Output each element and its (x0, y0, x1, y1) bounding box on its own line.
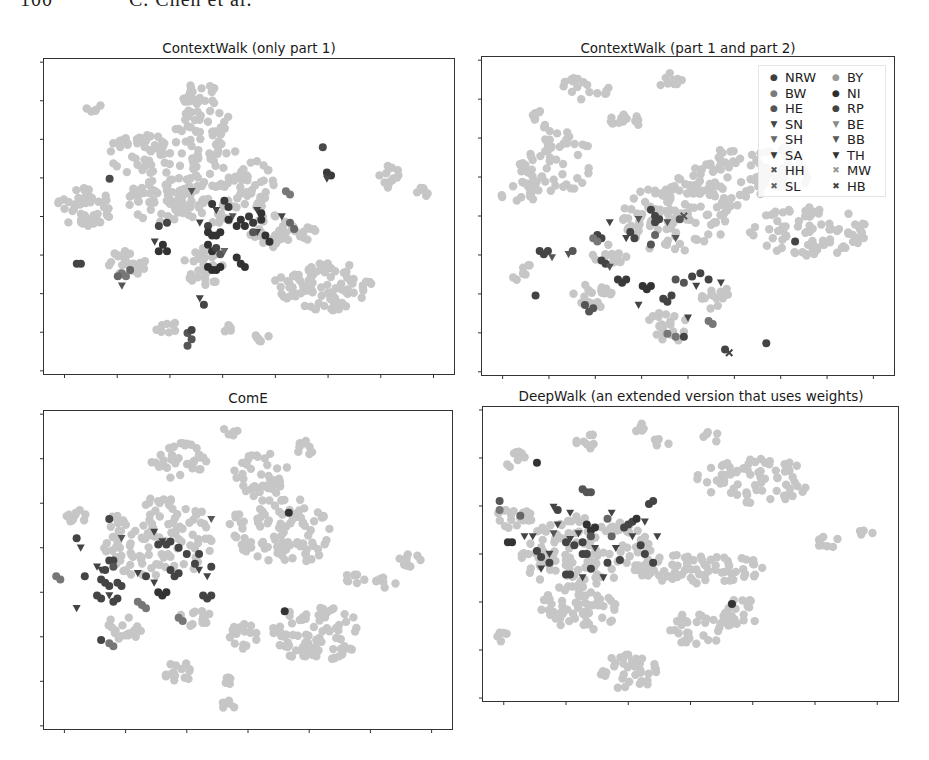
legend-item-by: ●BY (829, 70, 879, 86)
page-number: 100 (20, 0, 53, 10)
legend-label: TH (847, 148, 865, 164)
panel-title: ContextWalk (part 1 and part 2) (481, 40, 895, 56)
triangle-marker-icon: ▼ (829, 117, 843, 133)
legend-label: HB (847, 179, 866, 195)
x-marker-icon: ✖ (829, 179, 843, 195)
legend-label: SN (785, 117, 803, 133)
legend-item-sl: ✖SL (767, 179, 829, 195)
scatter-plot: ●NRW●BY●BW●NI●HE●RP▼SN▼BE▼SH▼BB▼SA▼TH✖HH… (481, 56, 895, 376)
legend-label: SA (785, 148, 802, 164)
legend-label: BE (847, 117, 864, 133)
legend-label: SH (785, 132, 803, 148)
legend-item-hb: ✖HB (829, 179, 879, 195)
circle-marker-icon: ● (829, 86, 843, 102)
panel-contextwalk-part1: ContextWalk (only part 1) (43, 40, 455, 380)
x-marker-icon: ✖ (829, 163, 843, 179)
background-points (493, 419, 876, 692)
circle-marker-icon: ● (767, 101, 781, 117)
scatter-canvas (44, 411, 452, 729)
legend-item-sa: ▼SA (767, 148, 829, 164)
legend-item-bw: ●BW (767, 86, 829, 102)
legend-item-sn: ▼SN (767, 117, 829, 133)
circle-marker-icon: ● (767, 86, 781, 102)
circle-marker-icon: ● (767, 70, 781, 86)
x-marker-icon: ✖ (767, 179, 781, 195)
legend-item-th: ▼TH (829, 148, 879, 164)
triangle-marker-icon: ▼ (767, 132, 781, 148)
legend-item-rp: ●RP (829, 101, 879, 117)
scatter-plot (43, 58, 455, 375)
legend-label: BY (847, 70, 863, 86)
legend-item-mw: ✖MW (829, 163, 879, 179)
legend-item-he: ●HE (767, 101, 829, 117)
triangle-marker-icon: ▼ (829, 148, 843, 164)
scatter-canvas (44, 59, 454, 374)
legend-label: BB (847, 132, 865, 148)
x-marker-icon: ✖ (767, 163, 781, 179)
triangle-marker-icon: ▼ (767, 148, 781, 164)
legend-item-ni: ●NI (829, 86, 879, 102)
legend-item-bb: ▼BB (829, 132, 879, 148)
legend: ●NRW●BY●BW●NI●HE●RP▼SN▼BE▼SH▼BB▼SA▼TH✖HH… (758, 65, 886, 197)
circle-marker-icon: ● (829, 101, 843, 117)
legend-label: BW (785, 86, 806, 102)
panel-contextwalk-part1-part2: ContextWalk (part 1 and part 2) ●NRW●BY●… (481, 40, 895, 380)
scatter-canvas (483, 407, 898, 701)
panel-title: ContextWalk (only part 1) (43, 40, 455, 56)
panel-come: ComE (43, 390, 453, 735)
legend-label: HH (785, 163, 805, 179)
legend-item-nrw: ●NRW (767, 70, 829, 86)
legend-label: SL (785, 179, 801, 195)
legend-item-hh: ✖HH (767, 163, 829, 179)
legend-item-be: ▼BE (829, 117, 879, 133)
circle-marker-icon: ● (829, 70, 843, 86)
panel-title: ComE (43, 390, 453, 406)
page-header: 100 C. Chen et al. (20, 0, 252, 11)
legend-label: HE (785, 101, 803, 117)
legend-label: MW (847, 163, 871, 179)
panel-title: DeepWalk (an extended version that uses … (482, 388, 900, 404)
triangle-marker-icon: ▼ (829, 132, 843, 148)
legend-label: RP (847, 101, 864, 117)
running-authors: C. Chen et al. (129, 0, 252, 10)
triangle-marker-icon: ▼ (767, 117, 781, 133)
background-points (54, 81, 432, 345)
scatter-plot (43, 410, 453, 730)
panel-deepwalk-weighted: DeepWalk (an extended version that uses … (482, 388, 900, 708)
legend-label: NI (847, 86, 861, 102)
scatter-plot (482, 406, 899, 702)
legend-item-sh: ▼SH (767, 132, 829, 148)
legend-label: NRW (785, 70, 816, 86)
axis-ticks (40, 414, 432, 733)
